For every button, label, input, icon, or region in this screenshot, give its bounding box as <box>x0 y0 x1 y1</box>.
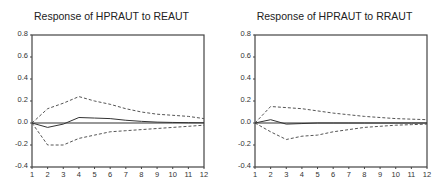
x-tick-label: 12 <box>423 170 431 179</box>
y-tick-label: 0.2 <box>18 95 28 104</box>
y-tick-label: 0.6 <box>18 51 28 60</box>
x-tick-label: 5 <box>315 170 319 179</box>
y-tick-label: 0.8 <box>18 29 28 38</box>
series-line <box>255 107 427 124</box>
y-tick-label: 0.4 <box>241 73 251 82</box>
x-tick-label: 7 <box>124 170 128 179</box>
series-line <box>255 123 427 140</box>
x-tick-label: 11 <box>184 170 192 179</box>
x-tick-label: 9 <box>378 170 382 179</box>
y-tick-label: 0.8 <box>241 29 251 38</box>
x-tick-label: 6 <box>331 170 335 179</box>
x-tick-label: 8 <box>139 170 143 179</box>
y-tick-label: -0.2 <box>15 139 28 148</box>
y-tick-label: 0.6 <box>241 51 251 60</box>
y-tick-label: -0.2 <box>238 139 251 148</box>
x-tick-label: 8 <box>362 170 366 179</box>
y-tick-label: 0.0 <box>241 117 251 126</box>
plot-frame <box>255 35 427 167</box>
x-tick-label: 10 <box>392 170 400 179</box>
x-tick-label: 2 <box>46 170 50 179</box>
irf-panel-reaut: Response of HPRAUT to REAUT 0.80.60.40.2… <box>0 0 223 187</box>
x-tick-label: 2 <box>269 170 273 179</box>
plot-frame <box>32 35 204 167</box>
x-tick-label: 1 <box>253 170 257 179</box>
x-tick-label: 10 <box>169 170 177 179</box>
chart-plot-area: 0.80.60.40.20.0-0.2-0.4123456789101112 <box>223 0 446 187</box>
chart-plot-area: 0.80.60.40.20.0-0.2-0.4123456789101112 <box>0 0 223 187</box>
y-tick-label: -0.4 <box>15 161 28 170</box>
irf-figure: Response of HPRAUT to REAUT 0.80.60.40.2… <box>0 0 446 187</box>
series-line <box>32 123 204 145</box>
x-tick-label: 9 <box>155 170 159 179</box>
x-tick-label: 12 <box>200 170 208 179</box>
y-tick-label: 0.4 <box>18 73 28 82</box>
x-tick-label: 3 <box>284 170 288 179</box>
x-tick-label: 6 <box>108 170 112 179</box>
irf-panel-rraut: Response of HPRAUT to RRAUT 0.80.60.40.2… <box>223 0 446 187</box>
y-tick-label: -0.4 <box>238 161 251 170</box>
y-tick-label: 0.0 <box>18 117 28 126</box>
y-tick-label: 0.2 <box>241 95 251 104</box>
x-tick-label: 5 <box>92 170 96 179</box>
x-tick-label: 3 <box>61 170 65 179</box>
x-tick-label: 4 <box>77 170 81 179</box>
x-tick-label: 1 <box>30 170 34 179</box>
x-tick-label: 7 <box>347 170 351 179</box>
x-tick-label: 4 <box>300 170 304 179</box>
x-tick-label: 11 <box>407 170 415 179</box>
